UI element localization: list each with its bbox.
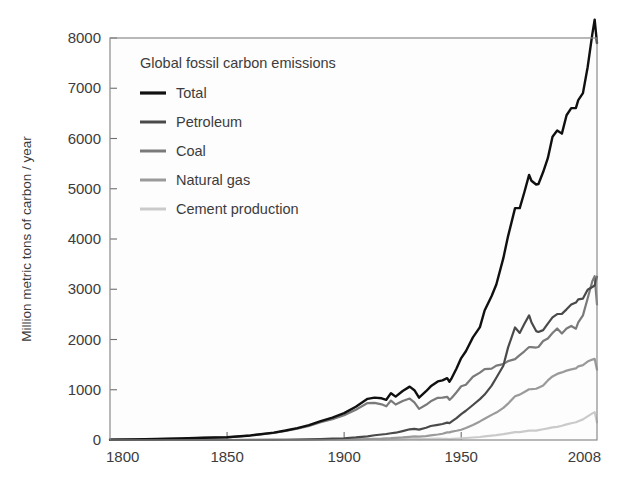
y-tick-label: 3000	[68, 280, 101, 297]
legend-item-total-label: Total	[176, 85, 207, 101]
y-tick-label: 0	[93, 431, 101, 448]
y-tick-label: 2000	[68, 331, 101, 348]
y-tick-label: 1000	[68, 381, 101, 398]
y-tick-label: 7000	[68, 79, 101, 96]
legend-item-petroleum-label: Petroleum	[176, 114, 242, 130]
y-axis-title: Million metric tons of carbon / year	[19, 136, 34, 342]
fossil-carbon-emissions-chart: 010002000300040005000600070008000 180018…	[0, 0, 640, 490]
y-tick-label: 4000	[68, 230, 101, 247]
x-tick-label: 1900	[327, 448, 360, 465]
y-tick-label: 6000	[68, 130, 101, 147]
legend-item-cement-production-label: Cement production	[176, 201, 299, 217]
x-tick-label: 1950	[445, 448, 478, 465]
x-tick-label: 1800	[106, 448, 139, 465]
chart-page: 010002000300040005000600070008000 180018…	[0, 0, 640, 490]
y-axis-tick-labels: 010002000300040005000600070008000	[68, 29, 101, 448]
x-tick-label: 1850	[210, 448, 243, 465]
legend-title: Global fossil carbon emissions	[140, 55, 336, 71]
x-tick-label: 2008	[568, 448, 601, 465]
x-axis-tick-labels: 18001850190019502008	[106, 448, 601, 465]
y-tick-label: 5000	[68, 180, 101, 197]
legend-item-natural-gas-label: Natural gas	[176, 172, 250, 188]
y-tick-label: 8000	[68, 29, 101, 46]
legend-item-coal-label: Coal	[176, 143, 206, 159]
